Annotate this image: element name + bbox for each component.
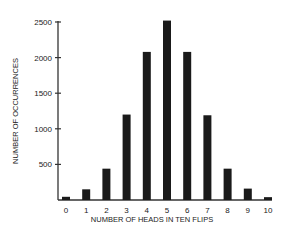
bar-chart: 5001000150020002500 012345678910 NUMBER …: [0, 0, 289, 243]
bar-5: [163, 21, 171, 200]
y-tick-label: 500: [39, 160, 53, 169]
x-axis-label: NUMBER OF HEADS IN TEN FLIPS: [91, 215, 213, 224]
bar-9: [244, 189, 252, 200]
x-tick-label: 0: [64, 206, 69, 215]
y-tick-label: 1000: [34, 125, 52, 134]
bar-3: [123, 115, 131, 200]
bar-7: [203, 115, 211, 200]
x-tick-label: 6: [185, 206, 190, 215]
bar-10: [264, 197, 272, 200]
bar-6: [183, 52, 191, 200]
x-ticks: 012345678910: [64, 206, 273, 215]
x-tick-label: 3: [124, 206, 129, 215]
x-tick-label: 1: [84, 206, 89, 215]
x-tick-label: 7: [205, 206, 210, 215]
x-tick-label: 8: [225, 206, 230, 215]
y-tick-label: 2000: [34, 54, 52, 63]
x-tick-label: 10: [264, 206, 273, 215]
bar-2: [102, 169, 110, 200]
y-tick-label: 2500: [34, 18, 52, 27]
bar-1: [82, 189, 90, 200]
bar-4: [143, 52, 151, 200]
bar-8: [224, 169, 232, 200]
bar-0: [62, 197, 70, 200]
x-tick-label: 4: [145, 206, 150, 215]
x-tick-label: 2: [104, 206, 109, 215]
x-tick-label: 5: [165, 206, 170, 215]
y-axis-label: NUMBER OF OCCURRENCES: [11, 58, 20, 164]
x-tick-label: 9: [246, 206, 251, 215]
bars: [62, 21, 272, 200]
y-tick-label: 1500: [34, 89, 52, 98]
y-ticks: 5001000150020002500: [34, 18, 61, 169]
